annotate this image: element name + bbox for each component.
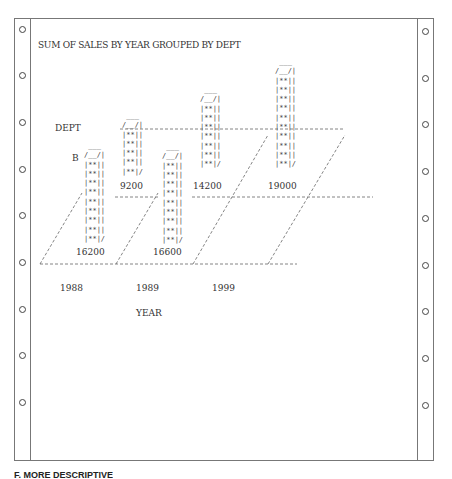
value-label: 16600 [153, 247, 182, 257]
bar-a-1988: ___ /__/| |**|| |**|| |**|| |**|| |**|/ [122, 112, 143, 177]
x-tick-1989: 1989 [136, 283, 159, 293]
bar-a-1989: ___ /__/| |**|| |**|| |**|| |**|| |**|| … [200, 86, 221, 170]
x-tick-1988: 1988 [60, 283, 83, 293]
value-label: 9200 [120, 181, 143, 191]
bar-a-1999: ___ /__/| |**|| |**|| |**|| |**|| |**|| … [275, 58, 296, 170]
value-label: 19000 [268, 181, 297, 191]
caption-text: F. MORE DESCRIPTIVE [14, 470, 113, 479]
value-label: 14200 [193, 181, 222, 191]
x-tick-1999: 1999 [212, 283, 235, 293]
value-label: 16200 [76, 247, 105, 257]
chart-floor-lines [0, 0, 452, 479]
bar-b-1988: ___ /__/| |**|| |**|| |**|| |**|| |**|| … [84, 142, 105, 244]
x-axis-label: YEAR [136, 308, 162, 318]
bar-b-1989: ___ /__/| |**|| |**|| |**|| |**|| |**|| … [162, 143, 183, 245]
